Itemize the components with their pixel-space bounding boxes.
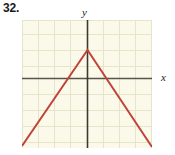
exercise-figure: 32. — [0, 0, 175, 155]
y-axis — [84, 20, 91, 148]
x-axis-label: x — [161, 72, 166, 83]
y-axis-label: y — [82, 7, 87, 18]
exercise-number: 32. — [3, 2, 19, 14]
graph-canvas — [22, 20, 152, 148]
plot-area — [22, 20, 152, 148]
